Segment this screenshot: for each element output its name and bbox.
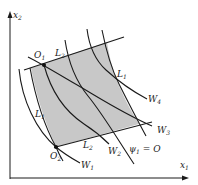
- y-axis-label: x2: [13, 10, 22, 21]
- point-O2: [54, 145, 58, 149]
- label-L1-right: L1: [116, 69, 127, 80]
- x-axis-label: x1: [180, 160, 189, 171]
- label-O1: O1: [34, 50, 45, 61]
- shaded-feasible-region: [31, 42, 139, 147]
- x-axis-arrow-icon: [182, 176, 189, 181]
- label-W1: W1: [81, 160, 94, 171]
- label-W4: W4: [148, 94, 161, 105]
- label-L2-top: L2: [54, 48, 65, 59]
- point-O1: [42, 63, 46, 67]
- label-O2: O2: [50, 151, 61, 162]
- label-L2-bottom: L2: [82, 140, 93, 151]
- feasible-region-diagram: x2 x1 O1 O2 L2 L2 L1 L1 W1 W2 W3 W4 ψ1 =…: [0, 0, 198, 185]
- label-W2: W2: [108, 146, 121, 157]
- y-axis-arrow-icon: [8, 11, 13, 18]
- label-psi1-zero: ψ1 = O: [129, 144, 161, 155]
- label-W3: W3: [157, 125, 170, 136]
